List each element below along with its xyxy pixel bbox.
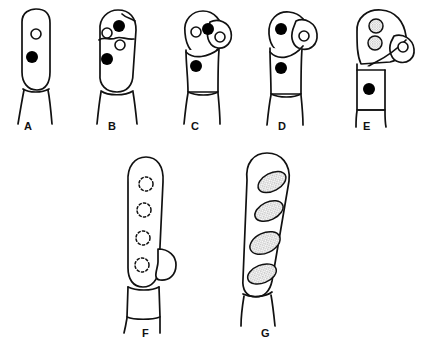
panel-b-stalk-right [133,92,137,124]
panel-e-spore-top [369,19,383,33]
panel-label-e: E [363,120,371,132]
panel-d-stalk-left [267,95,271,125]
panel-f-base-cell-right [159,287,160,317]
panel-f-spore-2 [137,203,151,217]
panel-f-base-septum [127,317,160,319]
panel-c-stalk-right [218,93,220,124]
panel-f-lateral-bud [156,249,176,280]
basidium-development-diagram [0,0,425,349]
panel-label-a: A [24,120,32,132]
panel-b-figure [97,10,137,124]
panel-f-figure [124,157,176,333]
panel-a-nucleus-hollow [31,29,41,39]
panel-b-nucleus-hollow-left [102,28,112,38]
panel-label-b: B [108,120,116,132]
panel-f-spore-4 [135,258,149,272]
panel-e-nucleus-solid-body [363,83,375,95]
panel-g-figure [241,153,289,326]
panel-d-nucleus-solid-body [275,62,287,74]
panel-c-nucleus-hollow-left [191,27,201,37]
panel-label-d: D [278,120,286,132]
panel-b-nucleus-solid-top [113,20,125,32]
diagram-canvas: A B C D E F G [0,0,425,349]
panel-label-g: G [261,327,270,339]
panel-c-figure [184,11,231,124]
panel-d-nucleus-hollow-lobe [299,31,309,41]
panel-b-nucleus-solid-bottom [101,53,113,65]
panel-e-spore-second [368,36,382,50]
panel-g-stalk-right [271,295,275,326]
panel-a-stalk-right [48,90,52,124]
panel-d-figure [267,12,317,125]
panel-a-cell-outline [22,9,50,90]
panel-d-nucleus-solid-top [275,23,287,35]
panel-f-base-cell-left [127,287,128,317]
panel-a-nucleus-solid [26,51,38,63]
panel-a-figure [18,9,52,124]
panel-label-f: F [142,327,149,339]
panel-f-spore-1 [139,177,153,191]
panel-b-nucleus-hollow-right [115,40,125,50]
panel-e-nucleus-hollow-lobe [398,42,408,52]
panel-c-nucleus-solid-body [190,60,202,72]
panel-f-spore-3 [136,231,150,245]
panel-e-stalk-left [356,111,357,127]
panel-c-nucleus-hollow-lobe [215,32,225,42]
panel-d-stalk-right [301,95,303,125]
panel-b-stalk-left [97,92,101,124]
panel-e-figure [356,10,414,127]
panel-g-stalk-left [241,296,244,326]
panel-a-stalk [18,90,24,124]
panel-e-stalk-right [385,111,386,127]
panel-c-nucleus-solid-top [202,23,214,35]
panel-label-c: C [191,120,199,132]
panel-c-stalk-left [184,93,188,124]
panel-f-stalk-left [124,318,127,333]
